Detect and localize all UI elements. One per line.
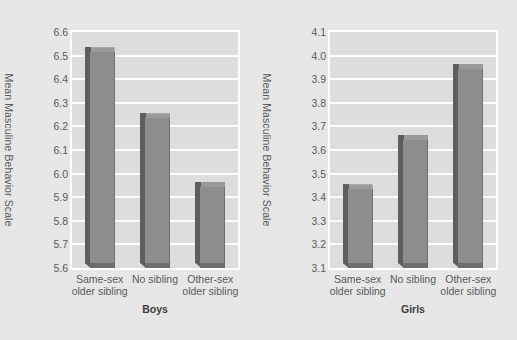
x-axis-label: Other-sexolder sibling xyxy=(432,273,504,297)
y-axis-tick-label: 5.7 xyxy=(38,239,68,249)
bar xyxy=(453,64,483,268)
bar-base-shadow xyxy=(145,263,170,268)
y-axis-tick-label: 3.8 xyxy=(296,98,326,108)
y-axis-tick-label: 3.5 xyxy=(296,169,326,179)
bar-base-shadow xyxy=(458,263,483,268)
group-title-boys: Boys xyxy=(70,303,240,315)
y-axis-tick-label: 5.6 xyxy=(38,263,68,273)
y-axis-tick-label: 4.0 xyxy=(296,51,326,61)
group-title-girls: Girls xyxy=(328,303,498,315)
gridline xyxy=(330,55,496,57)
y-axis-tick-label: 6.1 xyxy=(38,145,68,155)
bar-base-shadow xyxy=(403,263,428,268)
y-axis-tick-label: 5.8 xyxy=(38,216,68,226)
bar-front-face xyxy=(403,140,428,268)
chart-panel-girls: Mean Masculine Behavior Scale 4.14.03.93… xyxy=(258,0,516,340)
bar-base-shadow xyxy=(90,263,115,268)
y-axis-tick-label: 6.3 xyxy=(38,98,68,108)
bar xyxy=(398,135,428,268)
y-axis-tick-label: 3.9 xyxy=(296,74,326,84)
bar-base-shadow xyxy=(200,263,225,268)
y-axis-tick-label: 5.9 xyxy=(38,192,68,202)
x-axis-label-line: older sibling xyxy=(432,285,504,297)
y-axis-tick-label: 3.1 xyxy=(296,263,326,273)
y-axis-tick-label: 3.6 xyxy=(296,145,326,155)
y-axis-tick-label: 6.0 xyxy=(38,169,68,179)
y-axis-tick-label: 3.7 xyxy=(296,121,326,131)
bar-front-face xyxy=(200,187,225,268)
bar xyxy=(195,182,225,268)
y-axis-tick-label: 3.4 xyxy=(296,192,326,202)
x-axis-label: Other-sexolder sibling xyxy=(174,273,246,297)
x-axis-label-line: older sibling xyxy=(64,285,136,297)
figure-canvas: Mean Masculine Behavior Scale 6.66.56.46… xyxy=(0,0,517,340)
y-axis-tick-label: 3.3 xyxy=(296,216,326,226)
y-axis-tick-label: 4.1 xyxy=(296,27,326,37)
bar xyxy=(343,184,373,268)
chart-panel-boys: Mean Masculine Behavior Scale 6.66.56.46… xyxy=(0,0,258,340)
y-axis-tick-label: 6.5 xyxy=(38,51,68,61)
y-axis-tick-label: 3.2 xyxy=(296,239,326,249)
x-axis-label-line: older sibling xyxy=(322,285,394,297)
y-axis-title-girls: Mean Masculine Behavior Scale xyxy=(260,30,274,270)
bar-front-face xyxy=(458,69,483,268)
x-axis-label-line: Other-sex xyxy=(174,273,246,285)
y-axis-tick-label: 6.4 xyxy=(38,74,68,84)
bar-base-shadow xyxy=(348,263,373,268)
bar xyxy=(85,47,115,268)
bar-front-face xyxy=(90,52,115,268)
x-axis-label-line: Other-sex xyxy=(432,273,504,285)
bar xyxy=(140,113,170,268)
y-axis-title-boys: Mean Masculine Behavior Scale xyxy=(2,30,16,270)
y-axis-tick-label: 6.6 xyxy=(38,27,68,37)
x-axis-label-line: older sibling xyxy=(174,285,246,297)
bar-front-face xyxy=(145,118,170,268)
bar-front-face xyxy=(348,189,373,268)
y-axis-tick-label: 6.2 xyxy=(38,121,68,131)
plot-area-boys xyxy=(70,30,240,270)
plot-area-girls xyxy=(328,30,498,270)
